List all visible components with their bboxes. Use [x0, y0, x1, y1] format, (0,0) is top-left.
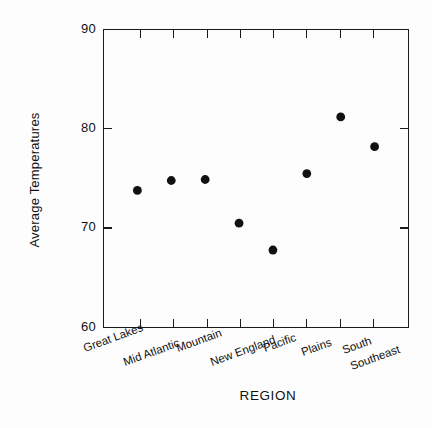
data-point: [269, 246, 278, 255]
y-tick-label-80: 80: [81, 120, 96, 135]
plot-frame: [104, 30, 409, 328]
x-axis-ticks: [141, 30, 374, 328]
y-tick-label-90: 90: [81, 21, 96, 36]
x-axis-title: REGION: [240, 388, 297, 403]
data-point: [336, 113, 345, 122]
y-axis-ticks: [104, 30, 409, 328]
data-point: [167, 176, 176, 185]
data-point: [201, 175, 210, 184]
axes-box: [104, 30, 409, 328]
data-point: [133, 186, 142, 195]
scatter-plot-figure: 90 80 70 60 Great Lakes M: [0, 0, 432, 428]
y-tick-label-70: 70: [81, 219, 96, 234]
data-point: [235, 219, 244, 228]
x-tick-label-plains: Plains: [300, 336, 334, 358]
x-axis-tick-labels: Great Lakes Mid Atlantic Mountain New En…: [82, 321, 403, 372]
x-tick-label-mountain: Mountain: [175, 326, 224, 353]
y-tick-label-60: 60: [81, 319, 96, 334]
y-axis-tick-labels: 90 80 70 60: [81, 21, 96, 334]
data-point: [370, 142, 379, 151]
data-point: [302, 169, 311, 178]
chart-canvas: 90 80 70 60 Great Lakes M: [0, 0, 432, 428]
x-tick-label-mid-atlantic: Mid Atlantic: [122, 336, 182, 367]
data-point-series: [133, 113, 379, 255]
y-axis-title: Average Temperatures: [27, 112, 42, 247]
